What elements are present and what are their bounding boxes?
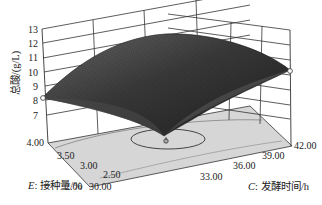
x-tick: 33.00 [200, 171, 223, 182]
z-tick: 9 [33, 81, 38, 92]
z-tick: 13 [28, 24, 38, 35]
z-axis-title: 总酸/(g/L) [9, 50, 22, 95]
x-tick: 30.00 [89, 181, 112, 192]
y-axis-title: E:接种量/% [27, 179, 82, 191]
y-tick: 4.00 [27, 137, 45, 148]
y-tick: 2.50 [103, 169, 121, 180]
design-point [288, 69, 293, 74]
z-tick: 7 [33, 110, 38, 121]
x-axis-title: C:发酵时间/h [248, 180, 310, 192]
design-point [41, 96, 46, 101]
z-tick: 12 [28, 38, 38, 49]
z-tick: 11 [28, 52, 38, 63]
x-tick: 36.00 [233, 160, 256, 171]
x-tick: 39.00 [262, 150, 285, 161]
z-tick: 8 [33, 95, 38, 106]
z-tick: 10 [28, 67, 38, 78]
response-surface-chart: 13 12 11 10 9 8 7 总酸/(g/L) 4.00 3.50 3.0… [0, 0, 322, 205]
y-tick: 3.00 [80, 160, 98, 171]
z-axis: 13 12 11 10 9 8 7 总酸/(g/L) [9, 24, 38, 121]
x-tick: 42.00 [294, 140, 317, 151]
y-tick: 3.50 [57, 150, 75, 161]
